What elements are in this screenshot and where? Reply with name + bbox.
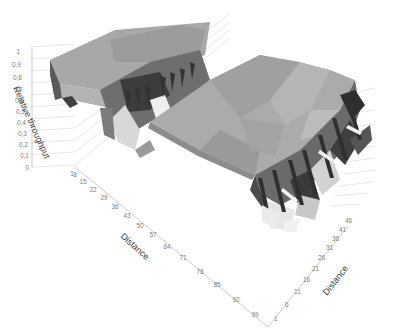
x-tick: 43 [123,212,131,219]
z-tick: 0,1 [20,152,29,159]
x-tick: 85 [213,281,221,288]
x-axis-title: Distance [119,231,152,262]
y-tick: 21 [312,265,320,272]
x-tick: 22 [89,186,97,193]
z-tick: 0,9 [12,61,21,68]
y-tick: 16 [303,276,311,283]
y-tick: 11 [294,288,301,295]
z-tick: 0,8 [13,74,22,81]
y-axis-title: Distance [321,263,350,297]
y-tick: 6 [285,301,289,308]
x-tick: 15 [79,178,87,185]
x-tick: 29 [100,194,108,201]
y-tick: 36 [332,235,340,242]
x-tick: 8 [73,171,77,178]
x-tick: 78 [196,268,204,275]
x-tick: 36 [111,203,119,210]
z-tick: 0,2 [19,141,28,148]
z-tick: 1 [16,48,20,55]
x-tick: 50 [136,222,144,229]
x-tick: 92 [232,296,240,303]
y-tick: 41 [339,226,347,233]
z-tick: 0,3 [18,130,27,137]
z-tick: 0 [25,164,29,171]
x-tick: 64 [163,243,171,250]
y-tick: 1 [274,315,278,322]
x-tick: 71 [179,254,187,261]
z-tick: 0,4 [17,119,26,126]
y-tick: 31 [326,244,334,251]
x-axis [75,167,268,327]
x-tick: 57 [149,231,157,238]
surface-chart: 0 0,1 0,2 0,3 0,4 0,5 0,6 0,7 0,8 0,9 1 … [0,0,404,335]
y-tick: 26 [318,254,326,261]
y-tick: 46 [345,217,353,224]
x-tick: 99 [251,311,259,318]
